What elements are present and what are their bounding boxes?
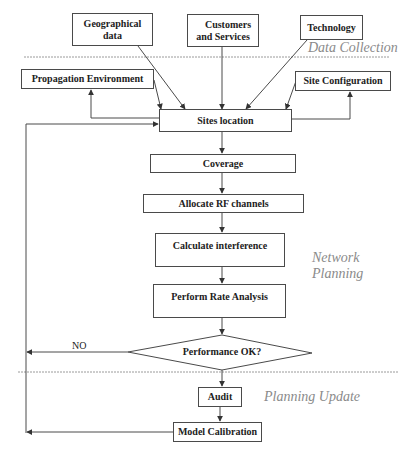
- node-label: Coverage: [203, 158, 244, 170]
- node-label: Perform Rate Analysis: [171, 291, 268, 303]
- node-label: Technology: [307, 22, 356, 34]
- allocate-rf-channels-node: Allocate RF channels: [143, 194, 304, 213]
- node-label: Allocate RF channels: [178, 198, 268, 210]
- phase-label-data-collection: Data Collection: [308, 40, 398, 56]
- technology-node: Technology: [300, 15, 363, 40]
- model-calibration-node: Model Calibration: [173, 422, 262, 442]
- audit-node: Audit: [198, 387, 242, 407]
- coverage-node: Coverage: [150, 154, 296, 173]
- node-label: Propagation Environment: [32, 73, 144, 85]
- phase-label-network-planning: Network Planning: [312, 250, 363, 282]
- phase-label-planning-update: Planning Update: [264, 389, 360, 405]
- node-label: Sites location: [197, 115, 253, 127]
- decision-label: Performance OK?: [170, 346, 274, 357]
- phase-label-line: Network: [312, 250, 363, 266]
- node-label: Audit: [208, 391, 232, 403]
- node-label: Customers: [195, 19, 251, 31]
- node-label: and Services: [196, 31, 250, 43]
- perform-rate-analysis-node: Perform Rate Analysis: [153, 284, 286, 318]
- phase-label-line: Planning: [312, 266, 363, 282]
- node-label: Calculate interference: [173, 240, 268, 252]
- flowchart-canvas: Geographical data Customers and Services…: [0, 0, 414, 461]
- calculate-interference-node: Calculate interference: [155, 233, 285, 267]
- node-label: Model Calibration: [178, 426, 257, 438]
- node-label: Geographical: [84, 18, 142, 30]
- node-label: Site Configuration: [303, 75, 382, 87]
- sites-location-node: Sites location: [159, 109, 292, 132]
- node-label: data: [103, 30, 122, 42]
- customers-services-node: Customers and Services: [187, 14, 259, 47]
- edge-label-no: NO: [72, 340, 86, 351]
- geographical-data-node: Geographical data: [72, 13, 153, 46]
- site-configuration-node: Site Configuration: [295, 71, 391, 91]
- propagation-environment-node: Propagation Environment: [21, 69, 154, 89]
